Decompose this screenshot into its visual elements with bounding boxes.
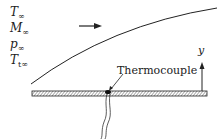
thermocouple-junction [105, 90, 111, 94]
label-Tt-inf: Tt∞ [10, 54, 28, 71]
thermocouple-label: Thermocouple [117, 65, 197, 76]
y-axis-label: y [198, 45, 204, 57]
diagram: T∞ M∞ p∞ Tt∞ Thermocouple y [0, 0, 217, 139]
flow-arrow-icon [79, 23, 102, 29]
y-axis-arrow-icon [200, 62, 205, 91]
thermocouple-wires [101, 94, 110, 139]
flat-plate [32, 91, 207, 96]
